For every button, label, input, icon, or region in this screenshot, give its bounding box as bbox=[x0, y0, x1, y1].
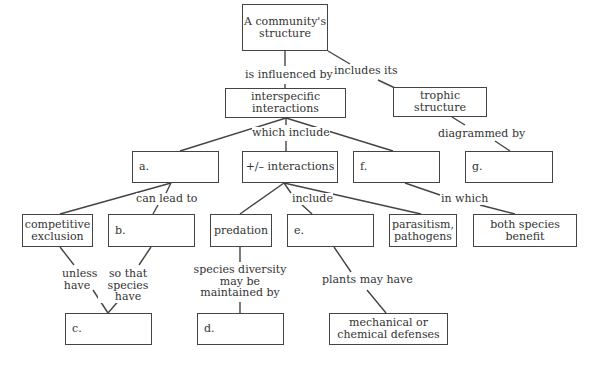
node-interspecific-interactions: interspecific interactions bbox=[225, 88, 346, 118]
link-is-influenced-by: is influenced by bbox=[245, 69, 333, 81]
node-plus-minus-interactions: +/– interactions bbox=[242, 151, 338, 183]
node-parasitism-pathogens: parasitism, pathogens bbox=[389, 214, 457, 247]
node-label: b. bbox=[115, 225, 126, 237]
node-blank-f[interactable]: f. bbox=[353, 151, 440, 183]
node-predation: predation bbox=[210, 214, 272, 247]
node-label: +/– interactions bbox=[246, 161, 335, 173]
node-trophic-structure: trophic structure bbox=[393, 87, 487, 117]
node-mechanical-chemical-defenses: mechanical or chemical defenses bbox=[329, 313, 448, 345]
link-diagrammed-by: diagrammed by bbox=[438, 128, 525, 140]
link-plants-may-have: plants may have bbox=[322, 274, 413, 286]
link-in-which: in which bbox=[441, 193, 488, 205]
node-blank-c[interactable]: c. bbox=[65, 313, 152, 345]
node-label: a. bbox=[139, 161, 149, 173]
link-can-lead-to: can lead to bbox=[136, 193, 197, 205]
link-so-that-species-have: so that species have bbox=[98, 268, 158, 303]
node-competitive-exclusion: competitive exclusion bbox=[22, 214, 93, 247]
node-blank-b[interactable]: b. bbox=[108, 214, 195, 247]
node-blank-g[interactable]: g. bbox=[465, 151, 553, 183]
node-label: trophic structure bbox=[394, 90, 486, 114]
node-both-species-benefit: both species benefit bbox=[473, 214, 577, 247]
link-includes-its: includes its bbox=[334, 65, 398, 77]
node-label: competitive exclusion bbox=[23, 219, 92, 243]
node-label: interspecific interactions bbox=[226, 91, 345, 115]
node-label: A community's structure bbox=[243, 16, 327, 40]
node-label: g. bbox=[472, 161, 483, 173]
node-blank-d[interactable]: d. bbox=[197, 313, 284, 345]
node-label: f. bbox=[360, 161, 367, 173]
node-label: predation bbox=[214, 225, 268, 237]
node-label: both species benefit bbox=[474, 219, 576, 243]
node-label: parasitism, pathogens bbox=[390, 219, 456, 243]
node-label: mechanical or chemical defenses bbox=[330, 317, 447, 341]
link-unless-have: unless have bbox=[62, 268, 92, 291]
link-species-diversity: species diversity may be maintained by bbox=[190, 264, 290, 299]
node-blank-a[interactable]: a. bbox=[132, 151, 219, 183]
node-label: e. bbox=[294, 225, 304, 237]
node-blank-e[interactable]: e. bbox=[287, 214, 374, 247]
link-include: include bbox=[292, 193, 333, 205]
link-which-include: which include bbox=[252, 127, 330, 139]
node-community-structure: A community's structure bbox=[242, 4, 328, 51]
node-label: c. bbox=[72, 323, 82, 335]
node-label: d. bbox=[204, 323, 215, 335]
